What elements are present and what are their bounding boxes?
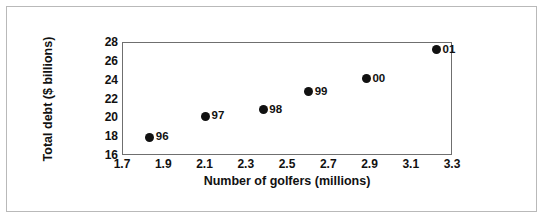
- x-tick-label: 2.7: [320, 158, 337, 170]
- x-tick-label: 2.5: [279, 158, 296, 170]
- x-tick-label: 3.3: [444, 158, 461, 170]
- x-tick-label: 1.7: [114, 158, 131, 170]
- x-axis-title: Number of golfers (millions): [122, 174, 452, 188]
- y-tick-label: 28: [105, 36, 118, 48]
- x-tick-label: 1.9: [155, 158, 172, 170]
- data-point-marker[interactable]: [145, 133, 154, 142]
- data-point-marker[interactable]: [201, 112, 210, 121]
- data-point-marker[interactable]: [362, 74, 371, 83]
- data-point-label: 00: [372, 73, 385, 85]
- y-tick-label: 24: [105, 74, 118, 86]
- data-point-marker[interactable]: [432, 45, 441, 54]
- data-point-label: 96: [156, 131, 169, 143]
- x-tick-label: 2.3: [237, 158, 254, 170]
- data-point-label: 98: [269, 104, 282, 116]
- y-tick-label: 22: [105, 93, 118, 105]
- x-axis-tick-labels: 1.71.92.12.32.52.72.93.13.3: [0, 158, 545, 174]
- y-tick-label: 20: [105, 111, 118, 123]
- plot-area: [122, 42, 452, 155]
- data-point-marker[interactable]: [304, 87, 313, 96]
- data-point-label: 97: [212, 110, 225, 122]
- y-tick-label: 18: [105, 130, 118, 142]
- data-point-label: 01: [443, 44, 456, 56]
- x-tick-label: 3.1: [402, 158, 419, 170]
- data-point-marker[interactable]: [259, 105, 268, 114]
- x-tick-label: 2.9: [361, 158, 378, 170]
- y-axis-title: Total debt ($ billions): [41, 24, 55, 174]
- data-point-label: 99: [315, 86, 328, 98]
- x-tick-label: 2.1: [196, 158, 213, 170]
- y-axis-tick-labels: 16182022242628: [94, 0, 118, 220]
- y-tick-label: 26: [105, 55, 118, 67]
- scatter-chart-figure: 16182022242628 1.71.92.12.32.52.72.93.13…: [0, 0, 545, 220]
